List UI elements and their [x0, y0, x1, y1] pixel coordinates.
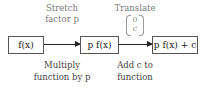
box-f-of-x: f(x): [8, 36, 44, 54]
arrow-stretch: [44, 44, 80, 45]
stretch-label: Stretch: [37, 3, 87, 14]
box-f-of-x-label: f(x): [18, 40, 33, 50]
box-p-f-of-x-plus-c-label: p f(x) + c: [154, 40, 196, 50]
right-paren-icon: [139, 15, 144, 36]
arrow-translate: [119, 44, 152, 45]
box-p-f-of-x-plus-c: p f(x) + c: [152, 36, 198, 54]
translation-vector: 0 c: [126, 15, 144, 34]
stretch-factor-label: factor p: [37, 14, 87, 25]
add-c-label: Add c to: [108, 60, 162, 71]
box-p-f-of-x: p f(x): [80, 36, 119, 54]
multiply-label: Multiply: [30, 60, 94, 71]
box-p-f-of-x-label: p f(x): [87, 40, 111, 50]
translate-label: Translate: [110, 3, 160, 14]
add-function-label: function: [108, 72, 162, 83]
multiply-function-label: function by p: [30, 72, 94, 83]
